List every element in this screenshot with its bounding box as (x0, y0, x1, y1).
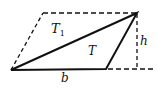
label-b: b (61, 71, 69, 85)
parallelogram-diagram: T1 T h b (0, 0, 157, 92)
label-h: h (140, 34, 148, 48)
label-t: T (88, 44, 97, 58)
dashed-left-side (11, 13, 43, 70)
label-t1: T1 (51, 21, 65, 38)
triangle-t (11, 13, 137, 70)
